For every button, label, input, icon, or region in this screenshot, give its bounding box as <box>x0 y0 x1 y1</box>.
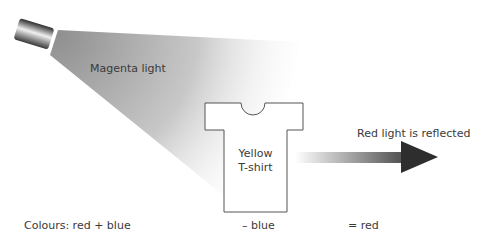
reflected-arrow-icon <box>295 141 438 173</box>
reflected-label: Red light is reflected <box>357 127 470 140</box>
equation-part2: – blue <box>242 219 275 232</box>
equation-part1: Colours: red + blue <box>24 219 131 232</box>
lamp-icon <box>14 18 55 50</box>
diagram-canvas <box>0 0 487 246</box>
shirt-label: Yellow T-shirt <box>224 147 287 175</box>
shirt-label-line1: Yellow <box>224 147 287 161</box>
shirt-label-line2: T-shirt <box>224 161 287 175</box>
equation-part3: = red <box>348 219 379 232</box>
magenta-light-label: Magenta light <box>90 62 166 75</box>
